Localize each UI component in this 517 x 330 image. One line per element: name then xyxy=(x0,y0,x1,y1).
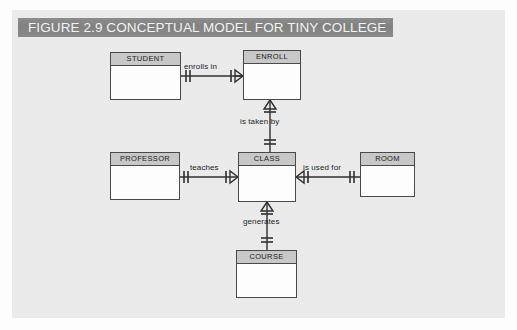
entity-professor-label: PROFESSOR xyxy=(111,153,179,166)
entity-student[interactable]: STUDENT xyxy=(110,52,181,100)
relationship-label-generates: generates xyxy=(243,217,279,226)
entity-student-label: STUDENT xyxy=(111,53,180,66)
entity-room-label: ROOM xyxy=(361,153,414,166)
connector-enrolls-in xyxy=(181,70,243,82)
relationship-label-is-used-for: is used for xyxy=(303,163,341,172)
entity-course[interactable]: COURSE xyxy=(236,250,297,298)
relationship-label-is-taken-by: is taken by xyxy=(240,117,279,126)
connector-is-taken-by xyxy=(264,100,276,152)
entity-course-attributes xyxy=(237,264,296,297)
connector-teaches xyxy=(180,171,238,183)
entity-professor[interactable]: PROFESSOR xyxy=(110,152,180,200)
entity-enroll-attributes xyxy=(244,64,300,99)
entity-student-attributes xyxy=(111,66,180,99)
entity-room-attributes xyxy=(361,166,414,196)
entity-enroll[interactable]: ENROLL xyxy=(243,50,301,100)
entity-course-label: COURSE xyxy=(237,251,296,264)
entity-class[interactable]: CLASS xyxy=(238,152,296,202)
connector-is-used-for xyxy=(296,171,360,183)
entity-enroll-label: ENROLL xyxy=(244,51,300,64)
entity-room[interactable]: ROOM xyxy=(360,152,415,197)
entity-class-label: CLASS xyxy=(239,153,295,166)
figure-page: FIGURE 2.9 CONCEPTUAL MODEL FOR TINY COL… xyxy=(0,0,517,330)
relationship-label-teaches: teaches xyxy=(190,163,219,172)
entity-professor-attributes xyxy=(111,166,179,199)
entity-class-attributes xyxy=(239,166,295,201)
relationship-label-enrolls-in: enrolls in xyxy=(184,62,217,71)
connector-generates xyxy=(261,202,273,250)
